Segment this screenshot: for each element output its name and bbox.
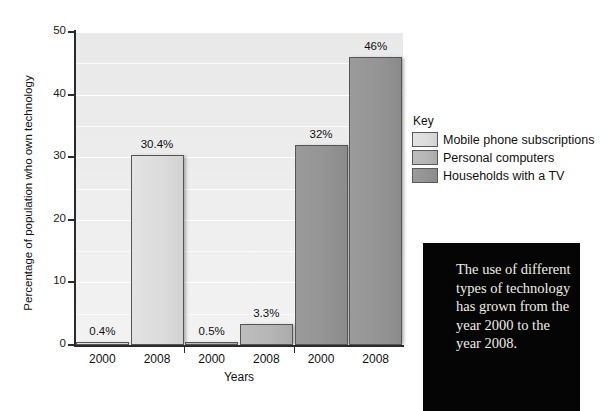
x-tick-label: 2008 bbox=[236, 352, 296, 366]
x-axis-title: Years bbox=[75, 370, 403, 384]
y-tick-label: 0 bbox=[42, 337, 66, 349]
y-tick-label: 10 bbox=[42, 274, 66, 286]
legend-item-households-with-a-tv: Households with a TV bbox=[412, 167, 602, 184]
y-tick-label: 50 bbox=[42, 24, 66, 36]
bar bbox=[131, 155, 184, 345]
y-tick-label: 30 bbox=[42, 149, 66, 161]
legend-item-label: Households with a TV bbox=[443, 169, 564, 183]
bar bbox=[295, 145, 348, 345]
plot-area: 0.4%30.4%0.5%3.3%32%46% bbox=[75, 32, 403, 345]
y-axis-title-label: Percentage of population who own technol… bbox=[22, 38, 34, 348]
x-tick-label: 2008 bbox=[346, 352, 406, 366]
callout-box: The use of different types of technology… bbox=[423, 243, 580, 411]
callout-text: The use of different types of technology… bbox=[456, 260, 571, 353]
legend-item-label: Personal computers bbox=[443, 151, 554, 165]
x-axis-line bbox=[74, 345, 404, 347]
legend-item-label: Mobile phone subscriptions bbox=[443, 133, 594, 147]
y-tick-label: 20 bbox=[42, 212, 66, 224]
y-axis-line bbox=[74, 30, 76, 347]
bar bbox=[240, 324, 293, 345]
x-tick-label: 2000 bbox=[182, 352, 242, 366]
legend-item-personal-computers: Personal computers bbox=[412, 149, 602, 166]
x-tick-label: 2008 bbox=[127, 352, 187, 366]
x-tick-label: 2000 bbox=[291, 352, 351, 366]
legend-item-mobile-phone-subscriptions: Mobile phone subscriptions bbox=[412, 131, 602, 148]
legend: Key Mobile phone subscriptions Personal … bbox=[412, 114, 602, 185]
bar-value-label: 46% bbox=[335, 40, 416, 52]
y-tick-label: 40 bbox=[42, 87, 66, 99]
y-axis-title: Percentage of population who own technol… bbox=[18, 40, 38, 350]
bar bbox=[349, 57, 402, 345]
chart-page: Percentage of population who own technol… bbox=[0, 0, 613, 411]
legend-swatch-icon bbox=[412, 168, 438, 183]
bar-value-label: 30.4% bbox=[117, 138, 198, 150]
bar-series-group: 0.4%30.4%0.5%3.3%32%46% bbox=[75, 32, 403, 345]
x-group-tick bbox=[294, 346, 295, 353]
legend-title: Key bbox=[412, 114, 602, 128]
x-tick-label: 2000 bbox=[72, 352, 132, 366]
x-group-tick bbox=[184, 346, 185, 353]
legend-swatch-icon bbox=[412, 150, 438, 165]
legend-swatch-icon bbox=[412, 132, 438, 147]
